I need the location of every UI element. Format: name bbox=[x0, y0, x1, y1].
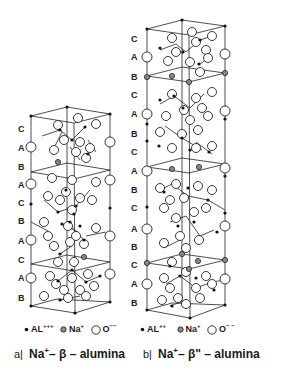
svg-text:B: B bbox=[131, 298, 138, 308]
svg-text:A: A bbox=[18, 236, 25, 246]
stacking-labels-b: C A B C A B C A B C A B C A B bbox=[131, 34, 138, 308]
svg-text:A: A bbox=[131, 166, 138, 176]
svg-text:B: B bbox=[18, 162, 25, 172]
legend-al-label: AL bbox=[31, 324, 43, 334]
svg-text:C: C bbox=[131, 203, 138, 213]
svg-text:C: C bbox=[131, 34, 138, 44]
legend-al-label: AL bbox=[147, 324, 159, 334]
legend-na-label: Na bbox=[186, 324, 198, 334]
stacking-labels-a: C A B A C B A C A B bbox=[18, 124, 25, 303]
na-ion-icon bbox=[177, 326, 184, 333]
svg-text:B: B bbox=[131, 72, 138, 82]
caption-a-phase: – β – alumina bbox=[49, 347, 125, 361]
svg-text:C: C bbox=[131, 147, 138, 157]
legend-a: AL+++ Na+ O−− bbox=[24, 323, 117, 335]
svg-text:B: B bbox=[18, 216, 25, 226]
svg-text:A: A bbox=[131, 52, 138, 62]
svg-text:C: C bbox=[18, 198, 25, 208]
caption-b-prefix: b| bbox=[143, 348, 152, 360]
legend-na-charge: + bbox=[197, 323, 201, 329]
svg-text:C: C bbox=[18, 124, 25, 134]
svg-text:B: B bbox=[18, 293, 25, 303]
svg-text:A: A bbox=[18, 273, 25, 283]
legend-na-label: Na bbox=[69, 324, 81, 334]
svg-text:A: A bbox=[131, 109, 138, 119]
svg-text:B: B bbox=[131, 185, 138, 195]
caption-b: b|Na+– β" – alumina bbox=[143, 346, 260, 361]
svg-text:A: A bbox=[131, 224, 138, 234]
legend-o-label: O bbox=[103, 324, 110, 334]
svg-text:B: B bbox=[131, 129, 138, 139]
svg-text:C: C bbox=[18, 255, 25, 265]
svg-text:A: A bbox=[131, 279, 138, 289]
svg-text:B: B bbox=[131, 242, 138, 252]
legend-na-charge: + bbox=[81, 323, 85, 329]
na-ion-icon bbox=[60, 326, 67, 333]
caption-b-ion: Na bbox=[158, 347, 173, 361]
caption-a-ion: Na bbox=[29, 347, 44, 361]
svg-text:C: C bbox=[131, 260, 138, 270]
legend-o-charge: − − bbox=[226, 323, 235, 329]
beta-alumina-structure: C A B A C B A C A B bbox=[18, 105, 115, 314]
beta-double-prime-alumina-structure: C A B C A B C A B C A B C A B bbox=[131, 18, 230, 319]
caption-a-prefix: a| bbox=[14, 348, 23, 360]
caption-b-phase: – β" – alumina bbox=[178, 347, 260, 361]
legend-al-charge: ++ bbox=[159, 323, 166, 329]
legend-al-charge: +++ bbox=[43, 323, 54, 329]
svg-text:A: A bbox=[18, 143, 25, 153]
al-ion-icon bbox=[24, 327, 29, 332]
caption-a: a|Na+– β – alumina bbox=[14, 346, 125, 361]
o-ion-icon bbox=[91, 325, 101, 335]
legend-o-charge: −− bbox=[110, 323, 117, 329]
svg-text:A: A bbox=[18, 180, 25, 190]
o-ion-icon bbox=[207, 325, 217, 335]
al-ion-icon bbox=[140, 327, 145, 332]
legend-b: AL++ Na+ O− − bbox=[140, 323, 235, 335]
svg-text:C: C bbox=[131, 90, 138, 100]
